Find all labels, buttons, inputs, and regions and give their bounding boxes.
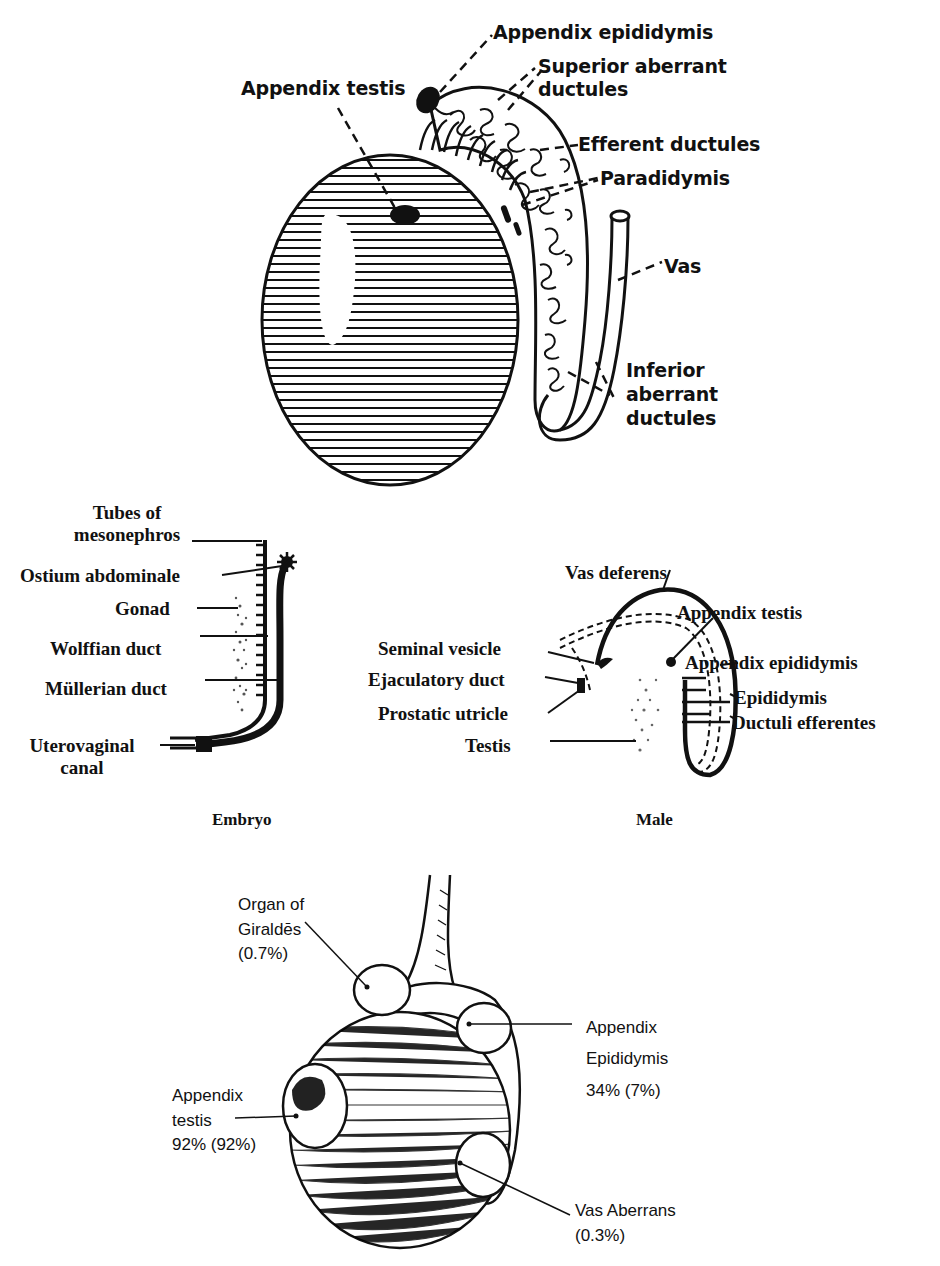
label-wolffian-duct: Wolffian duct: [50, 638, 161, 660]
label-app-epid-line1: Appendix: [586, 1012, 668, 1043]
caption-male: Male: [636, 810, 673, 830]
label-app-epid-line2: Epididymis: [586, 1043, 668, 1074]
label-tubes-line1: Tubes of: [72, 502, 182, 524]
label-appendix-testis-bottom: Appendix testis 92% (92%): [172, 1084, 256, 1158]
label-superior-aberrant-ductules-line2: ductules: [538, 79, 628, 101]
label-organ-of-giraldes: Organ of Giraldēs (0.7%): [238, 893, 304, 967]
embryo-drawing: [160, 540, 297, 752]
label-paradidymis: Paradidymis: [600, 168, 730, 190]
label-app-testis-pct: 92% (92%): [172, 1133, 256, 1158]
label-ductuli-efferentes: Ductuli efferentes: [732, 712, 876, 734]
label-gonad: Gonad: [115, 598, 170, 620]
label-giraldes-line2: Giraldēs: [238, 918, 304, 943]
label-uterovaginal-canal: Uterovaginal canal: [18, 735, 146, 779]
anatomy-figure: Appendix epididymis Superior aberrant du…: [0, 0, 940, 1266]
label-vas-aberrans-line1: Vas Aberrans: [575, 1199, 676, 1224]
label-giraldes-pct: (0.7%): [238, 942, 304, 967]
diagram-drawings: [0, 0, 940, 1266]
label-tubes-line2: mesonephros: [72, 524, 182, 546]
label-mullerian-duct: Müllerian duct: [45, 678, 167, 700]
label-ejaculatory-duct: Ejaculatory duct: [368, 669, 505, 691]
caption-embryo: Embryo: [212, 810, 272, 830]
label-appendix-epididymis: Appendix epididymis: [493, 22, 713, 44]
label-app-testis-line1: Appendix: [172, 1084, 256, 1109]
label-efferent-ductules: Efferent ductules: [578, 134, 760, 156]
label-uterovaginal-line2: canal: [18, 757, 146, 779]
label-inferior-aberrant-ductules-line2: aberrant: [626, 384, 718, 406]
label-appendix-testis-male: Appendix testis: [677, 602, 802, 624]
label-uterovaginal-line1: Uterovaginal: [18, 735, 146, 757]
label-vas: Vas: [664, 256, 701, 278]
label-testis-male: Testis: [465, 735, 511, 757]
label-vas-aberrans-pct: (0.3%): [575, 1224, 676, 1249]
label-app-epid-pct: 34% (7%): [586, 1075, 668, 1106]
label-prostatic-utricle: Prostatic utricle: [378, 703, 508, 725]
label-superior-aberrant-ductules-line1: Superior aberrant: [538, 56, 727, 78]
label-epididymis-male: Epididymis: [734, 687, 827, 709]
label-seminal-vesicle: Seminal vesicle: [378, 638, 501, 660]
label-inferior-aberrant-ductules-line3: ductules: [626, 408, 716, 430]
top-testis-drawing: [250, 35, 662, 485]
label-inferior-aberrant-ductules-line1: Inferior: [626, 360, 704, 382]
label-ostium-abdominale: Ostium abdominale: [20, 565, 180, 587]
label-vas-aberrans: Vas Aberrans (0.3%): [575, 1199, 676, 1248]
label-giraldes-line1: Organ of: [238, 893, 304, 918]
label-vas-deferens: Vas deferens: [565, 562, 667, 584]
label-appendix-epididymis-bottom: Appendix Epididymis 34% (7%): [586, 1012, 668, 1106]
label-tubes-of-mesonephros: Tubes of mesonephros: [72, 502, 182, 546]
label-app-testis-line2: testis: [172, 1109, 256, 1134]
label-appendix-epididymis-male: Appendix epididymis: [685, 652, 858, 674]
label-appendix-testis: Appendix testis: [241, 78, 405, 100]
